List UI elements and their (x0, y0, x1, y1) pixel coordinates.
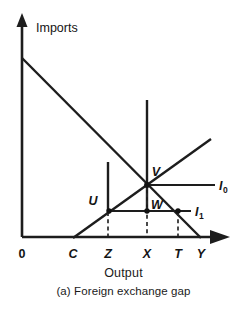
label-curve-I1: I1 (195, 205, 204, 221)
label-origin: 0 (19, 247, 26, 261)
point-dot-V (144, 182, 150, 188)
figure-caption: (a) Foreign exchange gap (0, 285, 247, 297)
import-capacity-line (73, 139, 211, 238)
point-dot-T (175, 208, 180, 213)
x-tick-label-C: C (68, 247, 78, 261)
y-axis-title: Imports (36, 21, 78, 35)
x-tick-label-Z: Z (103, 247, 113, 261)
point-dot-U (106, 208, 111, 213)
label-point-W: W (151, 198, 164, 212)
y-axis-arrow-icon (17, 13, 28, 27)
label-curve-I0: I0 (219, 179, 228, 195)
label-point-U: U (88, 194, 98, 208)
x-axis-arrow-icon (210, 230, 230, 244)
x-axis-title: Output (0, 266, 247, 280)
point-dot-W (144, 208, 149, 213)
x-tick-label-Y: Y (197, 247, 207, 261)
x-tick-label-X: X (142, 247, 152, 261)
foreign-exchange-gap-figure: U V W I0 I1 0 C Z X T Y Imports Output (… (0, 0, 247, 312)
x-tick-label-T: T (174, 247, 183, 261)
label-point-V: V (152, 165, 162, 179)
